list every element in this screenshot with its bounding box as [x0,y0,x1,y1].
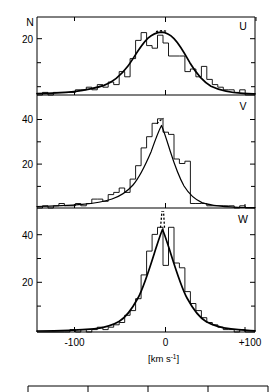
panel-u-fit-curve [37,32,255,94]
panel-u-right-ticks [250,39,255,87]
panel-u-ytick-20: 20 [22,34,34,45]
panel-w-y-ticks [37,235,42,306]
xtick-label-minus100: -100 [64,337,84,348]
panel-v: 40 20 V [22,95,255,208]
x-axis-unit-label-main: [km s [148,353,171,364]
xtick-label-zero: 0 [163,337,169,348]
panel-w: 40 20 W [22,208,255,332]
panel-label-u: U [239,20,247,32]
velocity-distribution-figure: 20 U 40 20 V [0,0,275,392]
bottom-table-partial [28,386,268,392]
panel-w-ytick-40: 40 [22,230,34,241]
panel-w-ytick-20: 20 [22,277,34,288]
panel-u-x-ticks [75,17,257,95]
x-axis-unit-label: [km s-1] [148,353,179,365]
panel-v-right-ticks [250,120,255,187]
panel-w-dashed-peak [161,211,165,228]
panel-u: 20 U [22,17,256,95]
panel-u-y-ticks [37,39,42,87]
panel-w-fit-curve [37,230,255,332]
panel-label-v: V [239,100,246,112]
panel-u-histogram [37,33,255,95]
y-axis-label-n: N [26,16,34,28]
x-axis-unit-label-end: ] [176,353,179,364]
panel-label-w: W [238,213,248,225]
panel-v-fit-curve [37,126,255,208]
panel-v-ytick-20: 20 [22,159,34,170]
xtick-label-plus100: +100 [239,337,262,348]
panel-w-right-ticks [250,235,255,306]
panel-v-ytick-40: 40 [22,114,34,125]
panel-v-y-ticks [37,120,42,187]
